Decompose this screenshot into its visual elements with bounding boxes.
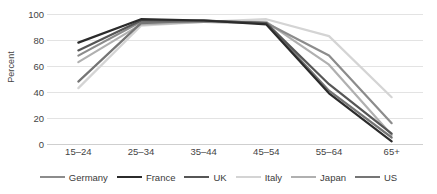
y-axis-title: Percent xyxy=(6,27,16,107)
x-tick-65plus: 65+ xyxy=(364,146,420,157)
legend-item-japan[interactable]: Japan xyxy=(291,172,346,183)
x-tick-45-54: 45–54 xyxy=(238,146,294,157)
legend-swatch-icon xyxy=(184,176,209,179)
legend-swatch-icon xyxy=(236,176,261,179)
x-tick-35-44: 35–44 xyxy=(176,146,232,157)
legend-item-label: US xyxy=(384,172,397,183)
legend-item-label: France xyxy=(146,172,176,183)
legend-item-label: Italy xyxy=(265,172,282,183)
y-tick-20: 20 xyxy=(18,114,44,123)
legend-item-uk[interactable]: UK xyxy=(184,172,226,183)
x-tick-25-34: 25–34 xyxy=(113,146,169,157)
plot-area: Percent 100 80 60 40 20 0 15–24 25–34 35… xyxy=(0,0,437,160)
y-tick-0: 0 xyxy=(18,140,44,149)
legend-swatch-icon xyxy=(117,176,142,179)
legend-item-france[interactable]: France xyxy=(117,172,176,183)
x-tick-55-64: 55–64 xyxy=(301,146,357,157)
plot-svg xyxy=(0,0,437,160)
legend-item-label: Germany xyxy=(69,172,108,183)
legend-swatch-icon xyxy=(291,176,316,179)
series-line-us xyxy=(78,21,391,138)
legend-swatch-icon xyxy=(40,176,65,179)
legend-item-italy[interactable]: Italy xyxy=(236,172,282,183)
legend-swatch-icon xyxy=(355,176,380,179)
y-tick-40: 40 xyxy=(18,88,44,97)
line-chart: Percent 100 80 60 40 20 0 15–24 25–34 35… xyxy=(0,0,437,194)
y-tick-100: 100 xyxy=(18,10,44,19)
y-tick-80: 80 xyxy=(18,36,44,45)
y-axis-tick-labels: 100 80 60 40 20 0 xyxy=(18,0,44,160)
legend-item-us[interactable]: US xyxy=(355,172,397,183)
legend-item-label: Japan xyxy=(320,172,346,183)
chart-legend: GermanyFranceUKItalyJapanUS xyxy=(0,166,437,188)
legend-item-label: UK xyxy=(213,172,226,183)
legend-item-germany[interactable]: Germany xyxy=(40,172,108,183)
series-lines xyxy=(78,19,391,141)
x-tick-15-24: 15–24 xyxy=(50,146,106,157)
y-tick-60: 60 xyxy=(18,62,44,71)
